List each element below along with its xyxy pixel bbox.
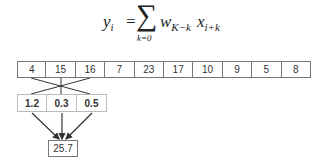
kernel-cell: 1.2: [17, 94, 47, 112]
output-cell: 25.7: [48, 140, 78, 157]
input-cell: 5: [252, 61, 281, 78]
input-cell: 23: [135, 61, 164, 78]
input-cell: 8: [282, 61, 311, 78]
arrow-kernel0-output: [32, 113, 59, 139]
input-sequence: 4 15 16 7 23 17 10 9 5 8: [17, 61, 311, 78]
input-cell: 16: [76, 61, 105, 78]
kernel-cell: 0.5: [77, 94, 107, 112]
kernel-weights: 1.2 0.3 0.5: [17, 94, 107, 112]
arrow-kernel2-output: [66, 113, 92, 139]
input-cell: 9: [223, 61, 252, 78]
output-value: 25.7: [48, 140, 78, 157]
input-cell: 4: [17, 61, 46, 78]
kernel-cell: 0.3: [47, 94, 77, 112]
input-cell: 15: [46, 61, 75, 78]
input-cell: 17: [164, 61, 193, 78]
input-cell: 10: [193, 61, 222, 78]
input-cell: 7: [105, 61, 134, 78]
